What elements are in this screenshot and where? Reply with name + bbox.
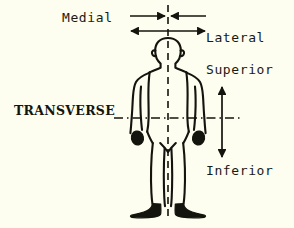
label-superior: Superior (206, 63, 273, 76)
human-body-outline (130, 38, 205, 206)
label-lateral: Lateral (206, 31, 265, 44)
label-medial: Medial (62, 11, 113, 24)
label-transverse: TRANSVERSE (14, 105, 115, 118)
label-inferior: Inferior (206, 164, 273, 177)
anatomical-planes-diagram: Medial Lateral Superior Inferior TRANSVE… (0, 0, 294, 228)
